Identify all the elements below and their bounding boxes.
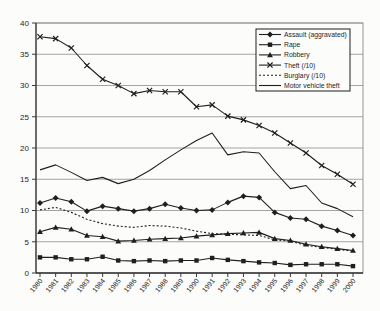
crime-rates-line-chart: 0510152025303540198019811982198319841985… (0, 0, 380, 311)
series-assault-aggravated-marker (319, 223, 325, 229)
series-theft-10-marker (69, 45, 74, 50)
x-tick-label: 2000 (341, 277, 356, 294)
y-tick-label: 0 (25, 269, 30, 278)
x-tick-label: 1995 (263, 277, 278, 294)
series-rape-marker (38, 255, 42, 259)
series-rape-marker (288, 263, 292, 267)
legend-entry-label: Motor vehicle theft (284, 82, 340, 89)
y-tick-label: 5 (25, 238, 30, 247)
x-tick-label: 1993 (232, 277, 247, 294)
series-rape-marker (351, 264, 355, 268)
series-theft-10-marker (84, 63, 89, 68)
series-assault-aggravated-marker (100, 203, 106, 209)
series-assault-aggravated-line (40, 196, 353, 235)
x-tick-label: 1981 (44, 277, 59, 294)
series-rape-marker (320, 262, 324, 266)
series-rape-marker (226, 258, 230, 262)
crime-rates-figure: 0510152025303540198019811982198319841985… (0, 0, 380, 311)
legend-entry-label: Robbery (284, 51, 310, 59)
series-assault-aggravated-marker (131, 208, 137, 214)
series-rape-marker (116, 258, 120, 262)
series-rape-marker (163, 259, 167, 263)
series-rape-marker (194, 258, 198, 262)
series-theft-10-marker (335, 172, 340, 177)
x-tick-label: 1990 (185, 277, 200, 294)
x-tick-label: 1984 (91, 277, 106, 294)
series-rape-marker (147, 258, 151, 262)
x-tick-label: 1987 (138, 277, 153, 294)
series-rape-marker (273, 261, 277, 265)
series-assault-aggravated-marker (37, 200, 43, 206)
series-rape-marker (210, 256, 214, 260)
y-tick-label: 30 (20, 81, 29, 90)
x-tick-label: 1994 (247, 277, 262, 294)
series-rape-marker (53, 255, 57, 259)
series-assault-aggravated-marker (225, 199, 231, 205)
y-tick-label: 10 (20, 206, 29, 215)
series-theft-10-marker (319, 163, 324, 168)
series-assault-aggravated-marker (287, 215, 293, 221)
series-rape-marker (335, 262, 339, 266)
series-assault-aggravated-marker (209, 207, 215, 213)
series-theft-10-marker (257, 123, 262, 128)
series-assault-aggravated-marker (194, 208, 200, 214)
series-rape-marker (179, 258, 183, 262)
series-robbery-marker (53, 224, 59, 229)
series-rape-marker (85, 257, 89, 261)
x-tick-label: 1983 (75, 277, 90, 294)
series-rape-marker (100, 255, 104, 259)
series-rape-marker (69, 257, 73, 261)
legend-entry-label: Theft (/10) (284, 62, 315, 70)
legend-sample-marker (268, 43, 272, 47)
y-tick-label: 25 (20, 113, 29, 122)
series-assault-aggravated-marker (350, 233, 356, 239)
series-assault-aggravated-marker (334, 228, 340, 234)
series-assault-aggravated-marker (162, 201, 168, 207)
series-assault-aggravated-marker (303, 216, 309, 222)
series-assault-aggravated-marker (240, 193, 246, 199)
legend-entry-label: Assault (aggravated) (284, 31, 347, 39)
y-tick-label: 40 (20, 19, 29, 28)
series-rape-marker (257, 260, 261, 264)
series-theft-10-marker (288, 140, 293, 145)
series-rape-marker (241, 259, 245, 263)
x-tick-label: 1980 (28, 277, 43, 294)
y-tick-label: 20 (20, 144, 29, 153)
y-tick-label: 35 (20, 50, 29, 59)
x-tick-label: 1989 (169, 277, 184, 294)
series-motor-vehicle-theft-line (40, 133, 353, 217)
series-rape-marker (132, 259, 136, 263)
series-theft-10-marker (350, 182, 355, 187)
series-rape-marker (304, 262, 308, 266)
legend-entry-label: Burglary (/10) (284, 72, 325, 80)
x-tick-label: 1986 (122, 277, 137, 294)
series-assault-aggravated-marker (68, 199, 74, 205)
y-tick-label: 15 (20, 175, 29, 184)
series-assault-aggravated-marker (53, 195, 59, 201)
x-tick-label: 1988 (154, 277, 169, 294)
series-theft-10-marker (303, 150, 308, 155)
x-tick-label: 1982 (60, 277, 75, 294)
x-tick-label: 1996 (279, 277, 294, 294)
series-theft-10-marker (272, 130, 277, 135)
series-assault-aggravated-marker (84, 208, 90, 214)
x-tick-label: 1992 (216, 277, 231, 294)
x-tick-label: 1999 (326, 277, 341, 294)
x-tick-label: 1997 (294, 277, 309, 294)
x-tick-label: 1998 (310, 277, 325, 294)
legend-entry-label: Rape (284, 41, 300, 49)
x-tick-label: 1991 (201, 277, 216, 294)
x-tick-label: 1985 (107, 277, 122, 294)
series-theft-10-marker (100, 77, 105, 82)
